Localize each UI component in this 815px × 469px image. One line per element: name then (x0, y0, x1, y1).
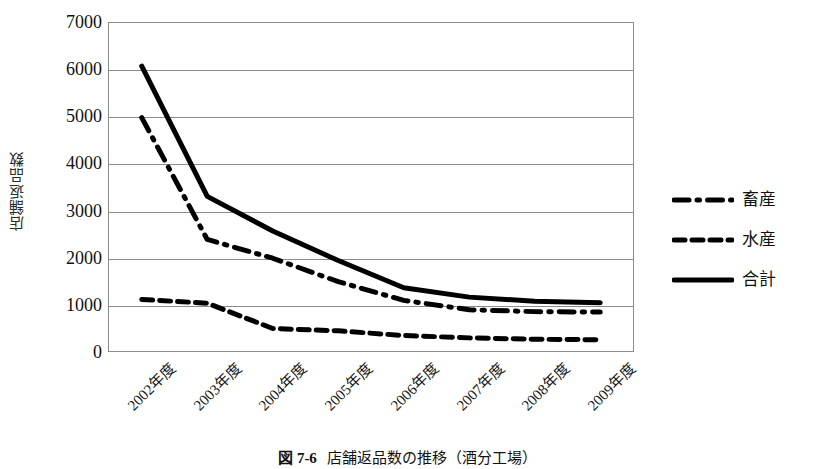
x-tick-label: 2002年度 (124, 360, 178, 414)
x-tick-label: 2007年度 (453, 360, 507, 414)
legend-item-畜産: 畜産 (672, 180, 812, 220)
figure-caption-text: 店舗返品数の推移（酒分工場） (327, 450, 537, 466)
x-tick-label: 2008年度 (519, 360, 573, 414)
y-tick-label: 6000 (36, 60, 102, 78)
figure-caption: 図 7-6店舗返品数の推移（酒分工場） (0, 448, 815, 468)
x-tick-label: 2005年度 (322, 360, 376, 414)
legend-label: 合計 (742, 271, 776, 289)
y-tick-label: 4000 (36, 154, 102, 172)
y-tick-label: 3000 (36, 202, 102, 220)
x-tick-label: 2003年度 (190, 360, 244, 414)
x-tick-label: 2006年度 (387, 360, 441, 414)
legend-item-合計: 合計 (672, 260, 812, 300)
legend-label: 水産 (742, 231, 776, 249)
chart-legend: 畜産水産合計 (672, 180, 812, 300)
y-tick-label: 1000 (36, 296, 102, 314)
legend-swatch-dash-dot-icon (672, 192, 734, 208)
legend-swatch-dashed-icon (672, 232, 734, 248)
x-tick-label: 2004年度 (256, 360, 310, 414)
y-tick-label: 2000 (36, 249, 102, 267)
figure-number: 図 7-6 (278, 450, 317, 466)
legend-label: 畜産 (742, 191, 776, 209)
legend-item-水産: 水産 (672, 220, 812, 260)
y-tick-label: 7000 (36, 13, 102, 31)
figure-root: 店舗返品数 01000200030004000500060007000 2002… (0, 0, 815, 469)
series-line-水産 (142, 299, 601, 339)
series-line-畜産 (142, 118, 601, 312)
x-axis-tick-labels: 2002年度2003年度2004年度2005年度2006年度2007年度2008… (0, 352, 815, 442)
y-tick-label: 5000 (36, 107, 102, 125)
plot-area (108, 22, 634, 352)
series-lines (109, 23, 633, 351)
legend-swatch-solid-icon (672, 272, 734, 288)
series-line-合計 (142, 66, 601, 303)
y-axis-title: 店舗返品数 (4, 96, 32, 286)
x-tick-label: 2009年度 (585, 360, 639, 414)
